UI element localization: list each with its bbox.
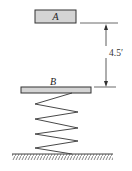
ground bbox=[12, 154, 113, 160]
arrow-up-icon bbox=[104, 24, 108, 30]
arrow-down-icon bbox=[104, 81, 108, 87]
spring-mass-diagram: A 4.5′ B bbox=[0, 0, 132, 171]
spring bbox=[35, 93, 78, 154]
platform-b-label: B bbox=[50, 76, 56, 87]
dimension-label: 4.5′ bbox=[109, 48, 123, 58]
block-a-label: A bbox=[51, 11, 59, 22]
platform-b: B bbox=[21, 76, 91, 93]
block-a: A bbox=[35, 10, 76, 23]
